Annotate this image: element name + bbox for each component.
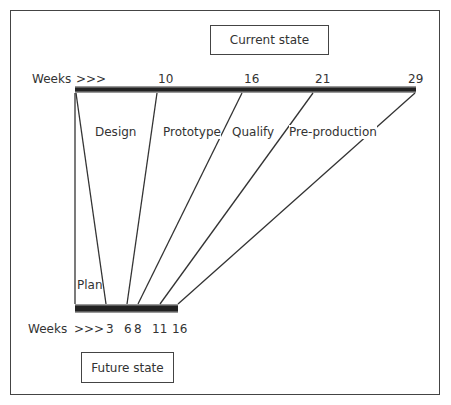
phase-plan: Plan: [77, 278, 103, 292]
future-state-box: Future state: [81, 352, 174, 383]
future-tick-8: 8: [134, 322, 142, 336]
future-tick-11: 11: [152, 322, 167, 336]
timeline-diagram: [0, 0, 451, 405]
future-arrows: >>>: [74, 322, 104, 336]
current-timeline-bar: [75, 88, 416, 92]
phase-design: Design: [95, 125, 136, 139]
phase-prototype: Prototype: [163, 125, 221, 139]
future-tick-16: 16: [172, 322, 187, 336]
future-tick-6: 6: [124, 322, 132, 336]
phase-preproduction: Pre-production: [289, 125, 377, 139]
future-weeks-label: Weeks: [28, 322, 67, 336]
future-tick-3: 3: [106, 322, 114, 336]
future-state-label: Future state: [91, 361, 163, 375]
future-timeline-bar: [75, 306, 178, 312]
phase-qualify: Qualify: [232, 125, 274, 139]
